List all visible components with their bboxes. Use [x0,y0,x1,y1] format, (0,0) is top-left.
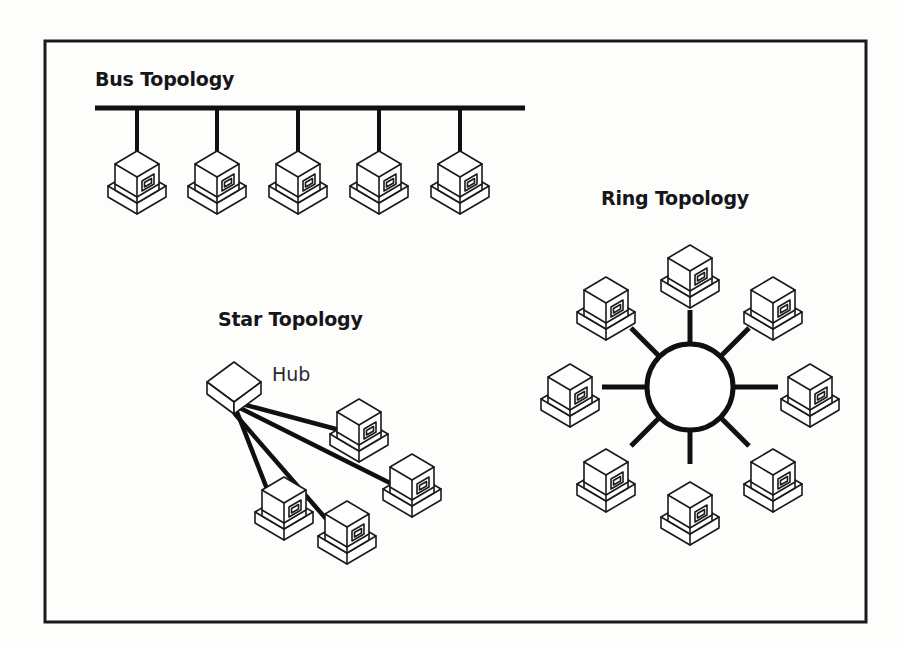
diagram-page: Bus Topology Star Topology [0,0,904,646]
computer-icon[interactable] [577,277,635,340]
ring-spoke [631,328,660,357]
computer-icon[interactable] [744,277,802,340]
computer-icon[interactable] [383,454,441,517]
computer-icon[interactable] [744,449,802,512]
ring-spoke [720,417,749,446]
star-topology-group: Star Topology Hub [207,308,441,564]
network-topology-diagram: Bus Topology Star Topology [0,0,904,646]
star-topology-title: Star Topology [218,308,363,330]
ring-spoke [631,417,660,446]
ring-topology-group: Ring Topology [541,187,839,545]
ring-spoke [720,328,749,357]
hub-label: Hub [272,363,310,385]
computer-icon[interactable] [661,482,719,545]
bus-topology-group: Bus Topology [95,68,525,214]
ring-center-circle[interactable] [647,344,733,430]
computer-icon[interactable] [577,449,635,512]
computer-icon[interactable] [431,151,489,214]
computer-icon[interactable] [269,151,327,214]
computer-icon[interactable] [318,501,376,564]
computer-icon[interactable] [188,151,246,214]
computer-icon[interactable] [350,151,408,214]
computer-icon[interactable] [781,364,839,427]
bus-topology-title: Bus Topology [95,68,235,90]
ring-topology-title: Ring Topology [601,187,750,209]
computer-icon[interactable] [661,245,719,308]
computer-icon[interactable] [108,151,166,214]
computer-icon[interactable] [541,364,599,427]
computer-icon[interactable] [330,399,388,462]
